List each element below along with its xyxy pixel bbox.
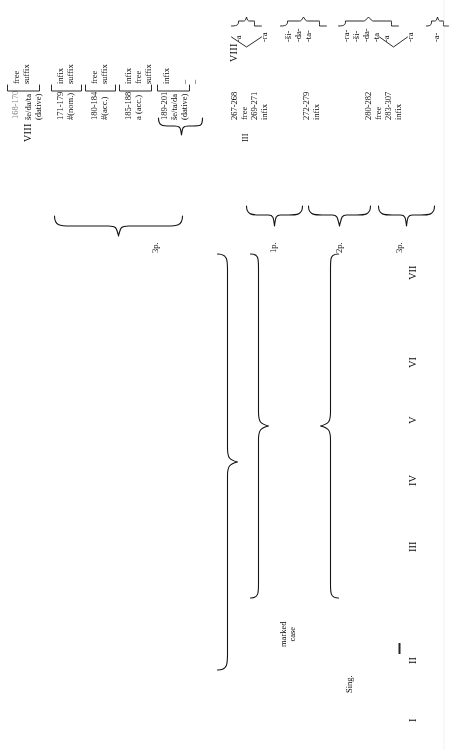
- col8-heading: VIII: [22, 123, 33, 142]
- column-header-V: V: [406, 416, 417, 424]
- col3-ref-3: 272-279: [300, 92, 310, 120]
- brace-marked-case-upper: [248, 252, 270, 600]
- col8r-p2-form-2: -da-: [292, 28, 302, 42]
- col3-kind-2: infix: [258, 92, 268, 120]
- column-tick-mark: [398, 643, 400, 654]
- col8-kind-2-suffix: suffix: [64, 64, 74, 84]
- column-header-III: III: [406, 542, 417, 553]
- brace-p3: [336, 14, 400, 28]
- col8r-p3-form-2: -ši-: [350, 28, 360, 42]
- col8r-p5-form-1: -a-: [430, 33, 440, 42]
- col3-ref-5: 283-307: [382, 92, 392, 120]
- bracket-col8-3: [84, 83, 116, 93]
- column-header-VI: VI: [406, 357, 417, 368]
- col3-block-1: 267-268 free 269-271 infix: [228, 92, 268, 120]
- bracket-col8-2: [50, 83, 82, 93]
- col8-entry-2-form: #(nom.): [64, 92, 74, 120]
- scan-edge-line: [443, 0, 444, 750]
- brace-row-2p: [306, 204, 372, 230]
- col3-ref-2: 269-271: [248, 92, 258, 120]
- column-header-II: II: [406, 657, 417, 664]
- col8r-p3-form-3: -da-: [360, 28, 370, 42]
- row-label-3p-b: 3p.: [394, 242, 403, 253]
- col8-kind-2: infix suffix: [54, 64, 74, 84]
- col3-kind-5: infix: [392, 92, 402, 120]
- bracket-col8-5: [156, 83, 190, 93]
- col3-ref-4: 280-282: [362, 92, 372, 120]
- col8-kind-2-infix: infix: [54, 64, 64, 84]
- col3-heading: III: [240, 134, 249, 143]
- angle-bracket-p1: [230, 34, 262, 50]
- col8-kind-1: free suffix: [10, 64, 30, 84]
- brace-infix-dashes: [156, 116, 204, 138]
- col8-kind-1-suffix: suffix: [20, 64, 30, 84]
- row-label-3p-a: 3p.: [150, 242, 159, 253]
- brace-sing-group: [215, 252, 239, 672]
- group-label-marked-case: marked case: [278, 622, 296, 648]
- col8r-p3-form-1: -ra-: [340, 28, 350, 42]
- col3-block-2: 272-279 infix: [300, 92, 320, 120]
- col8-kind-3-suffix: suffix: [98, 64, 108, 84]
- angle-bracket-p4: [378, 34, 408, 50]
- col8-entry-2: 171-179 #(nom.): [54, 92, 74, 120]
- brace-p1-under: [230, 14, 262, 28]
- col3-block-3: 280-282 free 283-307 infix: [362, 92, 402, 120]
- col3-kind-4: free: [372, 92, 382, 120]
- col8-entry-1-gloss: (dative): [32, 94, 42, 120]
- brace-row-3p-b: [376, 204, 436, 230]
- brace-p5: [424, 14, 450, 28]
- col8-entry-3-form: #(acc.): [98, 92, 108, 120]
- col8-kind-3-free: free: [88, 64, 98, 84]
- column-header-IV: IV: [406, 475, 417, 486]
- col8r-p2-form-3: -ta-: [302, 28, 312, 42]
- col8-entry-4-ref: 185-188: [122, 92, 132, 120]
- col8r-entry-p3: -ra- -ši- -da- -ta: [340, 28, 380, 42]
- col3-kind-3: infix: [310, 92, 320, 120]
- brace-p2: [278, 14, 328, 28]
- col8-ref-top: 168-170: [10, 91, 19, 119]
- col3-ref-1: 267-268: [228, 92, 238, 120]
- brace-col8-group: [52, 214, 184, 240]
- group-label-marked-case-line2: case: [287, 622, 296, 648]
- brace-marked-case-lower: [318, 252, 340, 600]
- group-label-sing: Sing.: [344, 675, 353, 693]
- col8-kind-1-free: free: [10, 64, 20, 84]
- col3-kind-1: free: [238, 92, 248, 120]
- col8-kind-4-suffix: suffix: [142, 64, 152, 84]
- bracket-col8-top: [6, 83, 40, 93]
- col8-entry-3: 180-184 #(acc.): [88, 92, 108, 120]
- brace-row-1p: [244, 204, 304, 230]
- col8-entry-3-ref: 180-184: [88, 92, 98, 120]
- column-header-VII: VII: [406, 265, 417, 280]
- col8-kind-5-infix: infix: [160, 68, 170, 84]
- column-header-I: I: [406, 719, 417, 723]
- col8-kind-5: infix: [160, 68, 170, 84]
- col8-kind-4-free: free: [132, 64, 142, 84]
- col8-entry-1-form: še/da/ta: [22, 94, 32, 120]
- col8-kind-4: infix free suffix: [122, 64, 152, 84]
- col8r-entry-p5: -a-: [430, 33, 440, 42]
- col8r-p2-form-1: -ši-: [282, 28, 292, 42]
- col8-entry-1: še/da/ta (dative): [22, 94, 42, 120]
- col8r-entry-p2: -ši- -da- -ta-: [282, 28, 312, 42]
- col8-entry-2-ref: 171-179: [54, 92, 64, 120]
- col8-entry-4-form: a (acc.): [132, 92, 142, 120]
- col8-kind-3: free suffix: [88, 64, 108, 84]
- col8-kind-4-infix: infix: [122, 64, 132, 84]
- col8-entry-4: 185-188 a (acc.): [122, 92, 142, 120]
- bracket-col8-4: [118, 83, 152, 93]
